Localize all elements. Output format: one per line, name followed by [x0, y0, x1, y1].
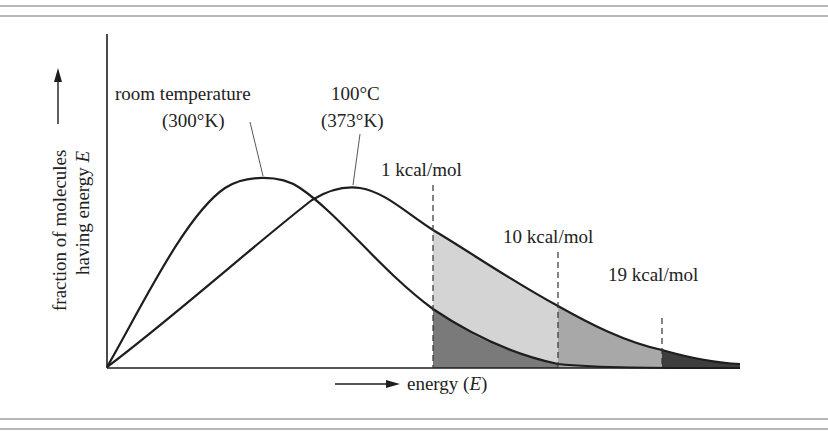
x-axis-label-text: energy (	[407, 373, 469, 395]
x-axis-label: energy (E)	[407, 373, 487, 395]
y-axis-label-line2: having energy E	[72, 150, 93, 275]
label-room-temp-line1: room temperature	[115, 83, 251, 104]
label-100c-line2: (373°K)	[321, 110, 383, 132]
label-room-temp-line2: (300°K)	[162, 110, 224, 132]
y-axis-label-var: E	[72, 150, 93, 163]
y-axis-label-line2-text: having energy	[72, 162, 93, 275]
x-axis-label-close: )	[481, 373, 487, 395]
leader-100c	[353, 134, 360, 185]
y-axis-arrow-icon	[54, 68, 62, 82]
label-1kcal: 1 kcal/mol	[381, 159, 462, 180]
label-10kcal: 10 kcal/mol	[503, 226, 593, 247]
x-axis-arrow-icon	[386, 380, 400, 388]
x-axis-label-var: E	[468, 373, 481, 394]
label-100c-line1: 100°C	[331, 83, 380, 104]
y-axis-label: fraction of molecules having energy E	[49, 150, 93, 311]
energy-distribution-chart: room temperature (300°K) 100°C (373°K) 1…	[0, 0, 828, 439]
label-19kcal: 19 kcal/mol	[608, 264, 698, 285]
y-axis-label-line1: fraction of molecules	[49, 150, 70, 311]
leader-room-temp	[250, 122, 263, 176]
